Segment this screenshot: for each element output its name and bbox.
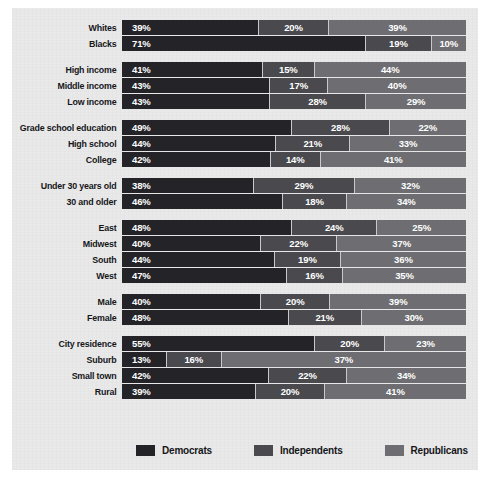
- legend-swatch-icon: [254, 445, 273, 456]
- segment-value: 43%: [122, 78, 151, 93]
- row-label: Midwest: [20, 236, 122, 251]
- segment-value: 41%: [325, 384, 466, 399]
- segment-republicans: 37%: [222, 352, 466, 367]
- segment-value: 30%: [362, 310, 466, 325]
- segment-value: 16%: [287, 268, 342, 283]
- segment-democrats: 71%: [122, 36, 366, 51]
- bar-group-gender: Male40%20%39%Female48%21%30%: [12, 294, 478, 325]
- segment-independents: 15%: [263, 62, 315, 77]
- segment-value: 16%: [167, 352, 221, 367]
- legend-item: Democrats: [136, 445, 212, 456]
- row-label: Small town: [20, 368, 122, 383]
- segment-value: 20%: [315, 336, 384, 351]
- segment-value: 48%: [122, 310, 151, 325]
- chart-row: Blacks71%19%10%: [12, 36, 478, 51]
- chart-panel: Whites39%20%39%Blacks71%19%10%High incom…: [12, 8, 478, 470]
- segment-value: 37%: [337, 236, 466, 251]
- segment-independents: 22%: [261, 236, 337, 251]
- row-label: Rural: [20, 384, 122, 399]
- bar-group-region: East48%24%25%Midwest40%22%37%South44%19%…: [12, 220, 478, 283]
- segment-value: 39%: [330, 294, 466, 309]
- row-label: East: [20, 220, 122, 235]
- segment-democrats: 46%: [122, 194, 283, 209]
- legend-item: Republicans: [385, 445, 468, 456]
- segment-value: 22%: [269, 368, 345, 383]
- chart-row: Low income43%28%29%: [12, 94, 478, 109]
- segment-value: 39%: [122, 384, 151, 399]
- segment-republicans: 34%: [347, 368, 466, 383]
- row-label: City residence: [20, 336, 122, 351]
- segment-independents: 20%: [259, 20, 329, 35]
- segment-value: 14%: [271, 152, 320, 167]
- stacked-bar: 40%20%39%: [122, 294, 466, 309]
- stacked-bar: 43%28%29%: [122, 94, 466, 109]
- segment-value: 25%: [377, 220, 466, 235]
- segment-value: 32%: [355, 178, 466, 193]
- segment-value: 49%: [122, 120, 151, 135]
- legend-label: Republicans: [411, 445, 468, 456]
- segment-value: 19%: [275, 252, 340, 267]
- row-label: High income: [20, 62, 122, 77]
- stacked-bar: 42%22%34%: [122, 368, 466, 383]
- chart-legend: DemocratsIndependentsRepublicans: [136, 445, 468, 456]
- segment-democrats: 48%: [122, 310, 289, 325]
- segment-value: 35%: [343, 268, 466, 283]
- chart-row: 30 and older46%18%34%: [12, 194, 478, 209]
- chart-row: Whites39%20%39%: [12, 20, 478, 35]
- segment-democrats: 47%: [122, 268, 287, 283]
- segment-republicans: 23%: [385, 336, 466, 351]
- legend-label: Independents: [280, 445, 343, 456]
- chart-row: Under 30 years old38%29%32%: [12, 178, 478, 193]
- segment-value: 28%: [292, 120, 388, 135]
- segment-value: 34%: [347, 368, 466, 383]
- segment-value: 20%: [259, 20, 328, 35]
- segment-democrats: 43%: [122, 78, 270, 93]
- segment-democrats: 43%: [122, 94, 270, 109]
- segment-independents: 20%: [315, 336, 385, 351]
- segment-value: 44%: [122, 136, 151, 151]
- row-label: College: [20, 152, 122, 167]
- segment-republicans: 32%: [355, 178, 466, 193]
- bar-group-education: Grade school education49%28%22%High scho…: [12, 120, 478, 167]
- segment-independents: 17%: [270, 78, 328, 93]
- chart-row: College42%14%41%: [12, 152, 478, 167]
- segment-value: 10%: [432, 36, 466, 51]
- segment-value: 42%: [122, 368, 151, 383]
- stacked-bar-chart: Whites39%20%39%Blacks71%19%10%High incom…: [12, 20, 478, 399]
- segment-independents: 21%: [276, 136, 350, 151]
- segment-democrats: 39%: [122, 20, 259, 35]
- bar-group-age: Under 30 years old38%29%32%30 and older4…: [12, 178, 478, 209]
- segment-republicans: 34%: [347, 194, 466, 209]
- segment-value: 41%: [321, 152, 466, 167]
- row-label: 30 and older: [20, 194, 122, 209]
- chart-row: High school44%21%33%: [12, 136, 478, 151]
- segment-republicans: 22%: [390, 120, 466, 135]
- segment-democrats: 49%: [122, 120, 292, 135]
- row-label: Low income: [20, 94, 122, 109]
- segment-value: 23%: [385, 336, 466, 351]
- chart-row: East48%24%25%: [12, 220, 478, 235]
- chart-row: Rural39%20%41%: [12, 384, 478, 399]
- segment-value: 44%: [122, 252, 151, 267]
- segment-value: 34%: [347, 194, 466, 209]
- segment-value: 47%: [122, 268, 151, 283]
- legend-swatch-icon: [385, 445, 404, 456]
- segment-value: 18%: [283, 194, 345, 209]
- segment-republicans: 10%: [432, 36, 466, 51]
- segment-republicans: 25%: [377, 220, 466, 235]
- segment-value: 22%: [261, 236, 336, 251]
- row-label: Suburb: [20, 352, 122, 367]
- segment-democrats: 39%: [122, 384, 256, 399]
- bar-group-race: Whites39%20%39%Blacks71%19%10%: [12, 20, 478, 51]
- segment-republicans: 33%: [350, 136, 466, 151]
- segment-value: 29%: [254, 178, 354, 193]
- segment-value: 40%: [328, 78, 466, 93]
- segment-republicans: 41%: [325, 384, 466, 399]
- legend-item: Independents: [254, 445, 343, 456]
- stacked-bar: 46%18%34%: [122, 194, 466, 209]
- segment-value: 20%: [261, 294, 329, 309]
- segment-republicans: 35%: [343, 268, 466, 283]
- segment-democrats: 40%: [122, 236, 261, 251]
- segment-democrats: 44%: [122, 252, 275, 267]
- segment-democrats: 55%: [122, 336, 315, 351]
